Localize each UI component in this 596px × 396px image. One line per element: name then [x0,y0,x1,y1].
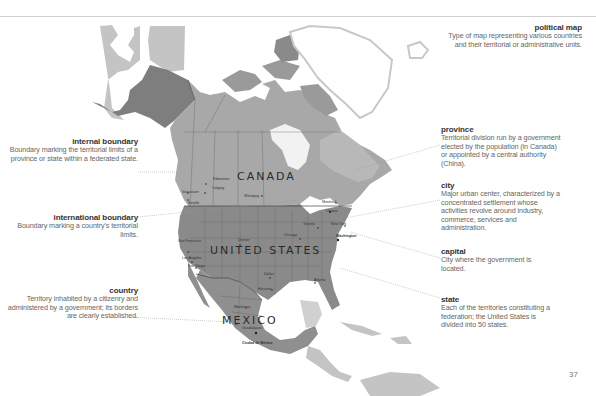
city-label: Dallas [264,272,274,276]
city-label: Guadalajara [242,326,262,330]
callout-text: Territory inhabited by a citizenry and a… [0,295,138,321]
callout-state: state Each of the territories constituti… [441,295,551,330]
page-number: 37 [569,370,578,379]
callout-international-boundary: international boundary Boundary marking … [0,213,138,239]
callout-text: Boundary marking a country's territorial… [0,222,138,239]
city-label: New York [331,222,346,226]
hispaniola [390,336,412,344]
city-label: Toronto [303,222,315,226]
arctic-islands [222,70,262,92]
yukon-west-land [148,26,185,72]
callout-text: Major urban center, characterized by a c… [441,190,563,233]
city-label: Chicago [284,233,297,237]
country-label-canada: CANADA [237,170,296,183]
city-label: Los Angeles [182,256,202,260]
central-america [306,346,352,382]
city-label: Atlanta [314,278,325,282]
yucatan [300,300,322,328]
united-states [178,204,352,310]
city-label: San Francisco [178,239,201,243]
country-label-usa: UNITED STATES [210,244,321,257]
capital-label: Ciudad de México [242,341,273,345]
callout-text: Boundary marking the territorial limits … [0,146,138,163]
city-label: Winnipeg [244,194,259,198]
city-label: Ottawa [326,209,337,213]
city-label: Calgary [212,186,224,190]
callout-text: Type of map representing various countri… [442,32,582,49]
callout-text: Territorial division run by a government… [441,134,561,168]
callout-text: City where the government is located. [441,256,541,273]
city-label: Seattle [188,201,199,205]
city-label: Monterrey [234,305,250,309]
callout-capital: capital City where the government is loc… [441,247,541,273]
south-america-tip [360,372,440,396]
callout-province: province Territorial division run by a g… [441,125,561,168]
callout-internal-boundary: internal boundary Boundary marking the t… [0,137,138,163]
cuba [340,322,382,336]
city-label: Houston [258,287,271,291]
callout-city: city Major urban center, characterized b… [441,181,563,233]
city-label: Vancouver [182,190,199,194]
callout-text: Each of the territories constituting a f… [441,304,551,330]
city-label: Montréal [322,200,336,204]
capital-label: Washington [336,234,356,238]
arctic-islands-2 [262,60,300,80]
city-label: Denver [238,238,250,242]
callout-political-map: political map Type of map representing v… [442,23,582,49]
callout-country: country Territory inhabited by a citizen… [0,286,138,321]
city-label: San Diego [188,264,205,268]
city-label: Edmonton [213,177,229,181]
iceland [408,42,428,58]
